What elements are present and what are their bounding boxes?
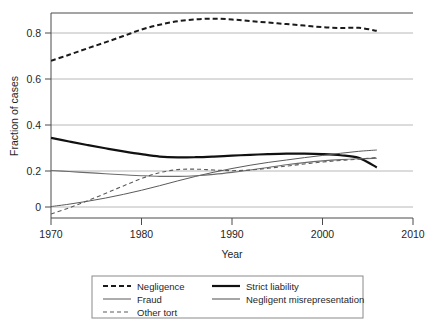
legend-label-negligence: Negligence	[137, 281, 185, 292]
legend-label-strict-liability: Strict liability	[246, 281, 299, 292]
y-ticklabel-0.8: 0.8	[26, 27, 41, 39]
y-axis-label: Fraction of cases	[8, 76, 20, 156]
y-ticklabel-0.6: 0.6	[26, 73, 41, 85]
line-chart-svg: 0.8 0.6 0.4 0.2 0 1970 1980 1990 2000 20…	[0, 0, 435, 330]
legend-label-fraud: Fraud	[137, 294, 162, 305]
legend-label-negligent-misrepresentation: Negligent misrepresentation	[246, 294, 364, 305]
x-ticklabel-2000: 2000	[311, 228, 335, 240]
x-ticklabel-1970: 1970	[39, 228, 63, 240]
x-ticklabel-1980: 1980	[130, 228, 154, 240]
y-ticklabel-0: 0	[35, 201, 41, 213]
chart-figure: 0.8 0.6 0.4 0.2 0 1970 1980 1990 2000 20…	[0, 0, 435, 330]
y-ticklabel-0.2: 0.2	[26, 165, 41, 177]
x-ticklabel-1990: 1990	[220, 228, 244, 240]
chart-legend: Negligence Strict liability Fraud Neglig…	[92, 276, 364, 318]
x-axis-label: Year	[221, 248, 243, 260]
legend-label-other-tort: Other tort	[137, 307, 177, 318]
x-ticklabel-2010: 2010	[401, 228, 425, 240]
y-ticklabel-0.4: 0.4	[26, 119, 41, 131]
